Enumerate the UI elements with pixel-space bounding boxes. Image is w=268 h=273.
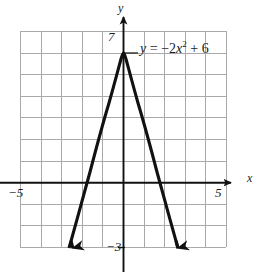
coordinate-plane bbox=[0, 0, 268, 273]
parabola-right-arrow bbox=[176, 241, 178, 248]
equation-coefficient: −2 bbox=[161, 41, 176, 56]
equation-exponent: 2 bbox=[182, 39, 187, 49]
x-axis-tick-label-5: 5 bbox=[215, 186, 222, 199]
equation-lhs: y bbox=[140, 41, 146, 56]
equation-annotation: y = −2x2 + 6 bbox=[140, 42, 209, 56]
parabola-left-arrow bbox=[71, 241, 73, 248]
equation-constant: 6 bbox=[202, 41, 209, 56]
y-axis-label: y bbox=[118, 2, 123, 14]
equation-plus-sign: + bbox=[190, 41, 198, 56]
figure-background bbox=[0, 0, 268, 273]
x-axis-label: x bbox=[247, 172, 252, 184]
equation-equals-sign: = bbox=[150, 41, 158, 56]
x-axis-tick-label-negative-5: −5 bbox=[8, 186, 23, 199]
y-axis-tick-label-7: 7 bbox=[108, 30, 115, 43]
y-axis-tick-label-negative-3: −3 bbox=[106, 240, 121, 253]
graph-figure: y x 7 −5 5 −3 y = −2x2 + 6 bbox=[0, 0, 268, 273]
